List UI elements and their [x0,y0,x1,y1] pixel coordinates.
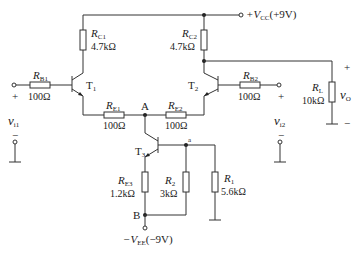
vi1-minus: − [12,130,18,141]
vo-minus: − [344,118,350,129]
rc1-name: RC1 [91,28,106,41]
vi2-label: vi2 [274,114,285,129]
re3-name: RE3 [118,175,133,188]
t2-label: T2 [188,80,198,93]
vee-label: −VEE(−9V) [123,234,173,247]
re1-value: 100Ω [103,121,125,131]
rc2-name: RC2 [182,28,197,41]
re1-name: RE1 [106,100,121,113]
re3-value: 1.2kΩ [110,189,135,199]
r2-name: R2 [165,175,175,188]
node-small-a-label: a [188,137,191,144]
vi1-plus: + [12,91,18,102]
vcc-label: +VCC(+9V) [246,9,296,22]
vi1-label: vi1 [8,114,19,129]
vo-label: vO [340,88,351,103]
rc2-value: 4.7kΩ [170,42,195,52]
rb1-name: RB1 [33,70,48,83]
circuit-diagram: +VCC(+9V) −VEE(−9V) RC1 4.7kΩ RC2 4.7kΩ … [0,0,359,259]
vo-plus: + [344,62,350,73]
rl-value: 10kΩ [302,96,324,106]
rb1-value: 100Ω [28,92,50,102]
r1-value: 5.6kΩ [221,187,246,197]
t1-label: T1 [86,80,96,93]
rb2-name: RB2 [243,70,258,83]
t3-label: T3 [135,146,145,159]
r1-name: R1 [224,173,234,186]
re2-name: RE2 [168,100,183,113]
vi2-plus: + [278,91,284,102]
r2-value: 3kΩ [160,189,177,199]
re2-value: 100Ω [165,121,187,131]
vi2-minus: − [278,130,284,141]
node-a-label: A [141,101,149,112]
rb2-value: 100Ω [238,92,260,102]
rc1-value: 4.7kΩ [91,42,116,52]
rl-name: RL [312,82,323,95]
node-b-label: B [133,210,140,221]
